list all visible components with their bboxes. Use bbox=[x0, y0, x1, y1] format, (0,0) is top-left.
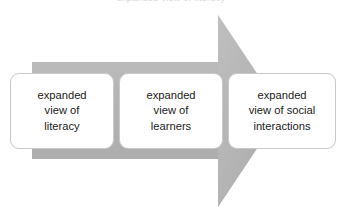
concept-box-label: expanded view of literacy bbox=[37, 88, 86, 135]
concept-box-learners[interactable]: expanded view of learners bbox=[119, 73, 223, 149]
concept-box-label: expanded view of learners bbox=[146, 88, 195, 135]
concept-box-literacy[interactable]: expanded view of literacy bbox=[10, 73, 114, 149]
concept-box-label: expanded view of social interactions bbox=[249, 88, 316, 135]
concept-box-social-interactions[interactable]: expanded view of social interactions bbox=[228, 73, 336, 149]
diagram-canvas: expanded view of literacy expanded view … bbox=[0, 0, 342, 221]
